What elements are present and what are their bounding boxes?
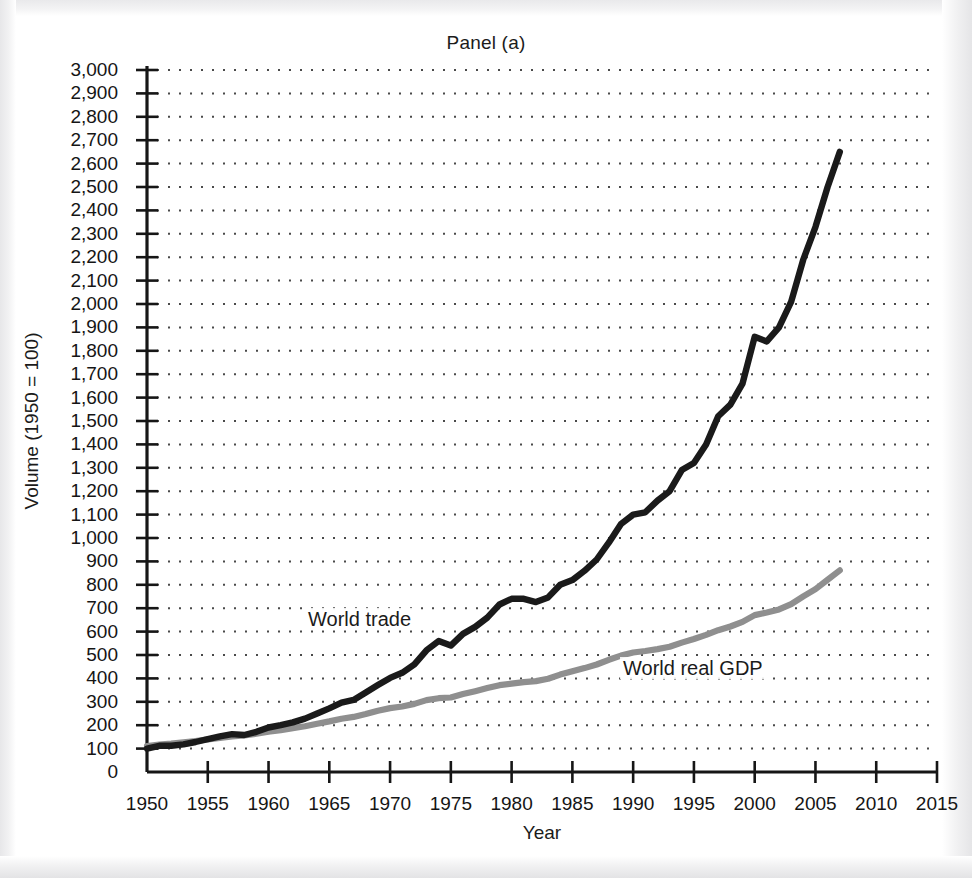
y-tick-label: 1,000 xyxy=(22,528,118,547)
y-tick-label: 1,700 xyxy=(22,364,118,383)
y-tick-label: 100 xyxy=(22,739,118,758)
y-tick-label: 1,200 xyxy=(22,481,118,500)
y-tick-label: 2,000 xyxy=(22,294,118,313)
y-tick-label: 500 xyxy=(22,645,118,664)
x-tick-label: 1985 xyxy=(537,794,607,813)
x-tick-label: 1965 xyxy=(294,794,364,813)
y-tick-label: 1,800 xyxy=(22,341,118,360)
x-tick-label: 2000 xyxy=(720,794,790,813)
y-tick-label: 1,600 xyxy=(22,388,118,407)
x-tick-label: 2005 xyxy=(780,794,850,813)
chart-plot-area xyxy=(0,0,972,878)
y-tick-label: 1,500 xyxy=(22,411,118,430)
y-tick-label: 2,200 xyxy=(22,247,118,266)
y-tick-label: 1,900 xyxy=(22,317,118,336)
y-tick-label: 1,400 xyxy=(22,434,118,453)
y-tick-label: 2,100 xyxy=(22,271,118,290)
gridlines-group xyxy=(157,70,937,749)
x-tick-label: 1960 xyxy=(234,794,304,813)
figure-page: Panel (a) Volume (1950 = 100) Year 01002… xyxy=(0,0,972,878)
x-tick-label: 1955 xyxy=(173,794,243,813)
y-tick-label: 400 xyxy=(22,668,118,687)
x-tick-label: 1970 xyxy=(355,794,425,813)
y-tick-label: 2,300 xyxy=(22,224,118,243)
y-tick-label: 0 xyxy=(22,762,118,781)
y-tick-label: 1,100 xyxy=(22,505,118,524)
y-tick-label: 1,300 xyxy=(22,458,118,477)
x-tick-label: 1980 xyxy=(477,794,547,813)
y-tick-label: 3,000 xyxy=(22,60,118,79)
series-annotation-world-trade: World trade xyxy=(305,608,414,630)
x-tick-label: 1975 xyxy=(416,794,486,813)
y-tick-label: 2,500 xyxy=(22,177,118,196)
y-tick-label: 2,800 xyxy=(22,107,118,126)
x-tick-label: 2015 xyxy=(902,794,972,813)
y-tick-label: 700 xyxy=(22,598,118,617)
x-tick-label: 2010 xyxy=(841,794,911,813)
y-tick-label: 200 xyxy=(22,715,118,734)
x-tick-label: 1995 xyxy=(659,794,729,813)
y-tick-label: 600 xyxy=(22,622,118,641)
y-tick-label: 2,600 xyxy=(22,154,118,173)
y-tick-label: 300 xyxy=(22,692,118,711)
x-tick-label: 1950 xyxy=(112,794,182,813)
y-tick-label: 800 xyxy=(22,575,118,594)
y-tick-label: 2,700 xyxy=(22,130,118,149)
x-tick-label: 1990 xyxy=(598,794,668,813)
y-tick-label: 2,900 xyxy=(22,83,118,102)
y-tick-label: 2,400 xyxy=(22,200,118,219)
series-annotation-world-real-gdp: World real GDP xyxy=(620,657,766,679)
y-tick-label: 900 xyxy=(22,551,118,570)
